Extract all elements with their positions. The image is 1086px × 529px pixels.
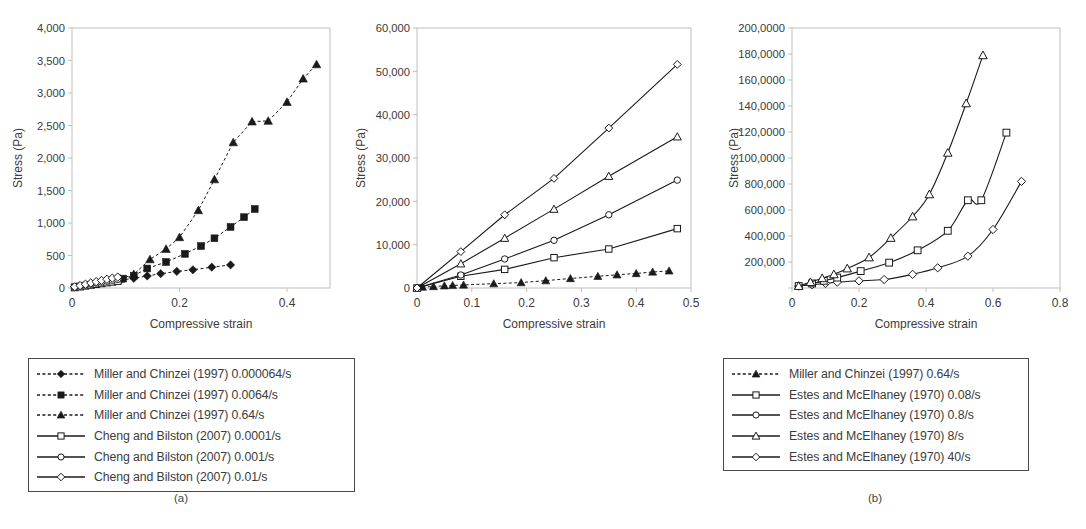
triangle-marker [229, 138, 238, 146]
square-marker [501, 266, 507, 272]
y-tick-label: 500 [46, 250, 65, 262]
x-tick-label: 0 [69, 296, 76, 310]
series-line [799, 55, 983, 286]
legend-swatch [35, 429, 87, 443]
y-tick-label: 60,000 [376, 22, 410, 34]
y-tick-label: 50,000 [376, 66, 410, 78]
legend-label: Miller and Chinzei (1997) 0.000064/s [94, 367, 291, 381]
diamond-marker [1017, 177, 1025, 185]
triangle-marker [925, 190, 934, 198]
x-axis-title: Compressive strain [875, 317, 978, 330]
series-line [123, 209, 255, 279]
y-tick-label: 4,000 [37, 22, 65, 34]
square-marker [978, 197, 985, 204]
circle-marker [501, 256, 507, 262]
triangle-marker [944, 149, 953, 157]
x-tick-label: 0 [414, 296, 421, 310]
legend-item: Miller and Chinzei (1997) 0.0064/s [35, 385, 347, 406]
diamond-marker [57, 371, 65, 379]
legend-item: Cheng and Bilston (2007) 0.0001/s [35, 426, 347, 447]
series-1 [418, 267, 673, 290]
y-tick-label: 30,000 [376, 152, 410, 164]
panel-b: 010,00020,00030,00040,00050,00060,00000.… [345, 0, 715, 529]
y-tick-label: 1,500 [37, 185, 65, 197]
legend-item: Miller and Chinzei (1997) 0.000064/s [35, 364, 347, 385]
triangle-marker [673, 133, 681, 140]
circle-marker [606, 212, 612, 218]
square-marker [914, 247, 921, 254]
square-marker [58, 392, 64, 398]
plot-area-a: 05001,0001,5002,0002,5003,0003,5004,0000… [0, 0, 362, 330]
triangle-marker [146, 255, 155, 263]
diamond-marker [880, 275, 888, 283]
square-marker [211, 235, 218, 242]
y-tick-label: 800,000 [745, 178, 785, 190]
y-tick-label: 2,000 [37, 152, 65, 164]
legend-swatch [35, 470, 87, 484]
diamond-marker [208, 263, 216, 271]
square-marker [551, 254, 557, 260]
square-marker [964, 197, 971, 204]
triangle-marker [566, 274, 574, 281]
chart-b: 010,00020,00030,00040,00050,00060,00000.… [345, 0, 715, 330]
legend-swatch [35, 450, 87, 464]
diamond-marker [173, 267, 181, 275]
y-tick-label: 3,000 [37, 87, 65, 99]
triangle-marker [299, 74, 308, 82]
y-tick-label: 160,0000 [738, 74, 785, 86]
series-3 [794, 51, 987, 289]
legend-swatch [35, 408, 87, 422]
triangle-marker [865, 253, 874, 261]
y-tick-label: 40,000 [376, 109, 410, 121]
diamond-marker [143, 272, 151, 280]
triangle-marker [175, 233, 184, 241]
square-marker [674, 225, 680, 231]
chart-c: 200,000400,000600,000800,000100,0000120,… [700, 0, 1086, 330]
legend-label: Cheng and Bilston (2007) 0.01/s [94, 470, 267, 484]
square-marker [144, 265, 151, 272]
square-marker [1003, 129, 1010, 136]
y-tick-label: 100,0000 [738, 152, 785, 164]
triangle-marker [57, 412, 65, 419]
triangle-marker [440, 282, 448, 289]
y-tick-label: 1,000 [37, 217, 65, 229]
x-tick-label: 0.4 [918, 296, 935, 310]
triangle-marker [457, 260, 465, 267]
square-marker [251, 206, 258, 213]
series-line [417, 64, 677, 288]
diamond-marker [189, 266, 197, 274]
circle-marker [58, 454, 64, 460]
square-marker [227, 224, 234, 231]
x-tick-label: 0.2 [518, 296, 535, 310]
series-4 [413, 133, 681, 291]
circle-marker [674, 177, 680, 183]
series-line [799, 181, 1022, 286]
y-tick-label: 2,500 [37, 120, 65, 132]
x-tick-label: 0.8 [1052, 296, 1069, 310]
y-tick-label: 400,000 [745, 230, 785, 242]
square-marker [181, 250, 188, 257]
legend-swatch [35, 367, 87, 381]
plot-frame [417, 28, 691, 288]
plot-area-c: 200,000400,000600,000800,000100,0000120,… [700, 0, 1086, 330]
triangle-marker [550, 205, 558, 212]
y-axis-title: Stress (Pa) [727, 128, 741, 188]
triangle-marker [613, 271, 621, 278]
series-line [799, 133, 1007, 286]
panel-caption-a: (a) [0, 492, 362, 504]
square-marker [241, 214, 248, 221]
figure-stress-strain-comparison: 05001,0001,5002,0002,5003,0003,5004,0000… [0, 0, 1086, 529]
y-tick-label: 0 [404, 282, 410, 294]
square-marker [886, 259, 893, 266]
diamond-marker [157, 270, 165, 278]
series-line [120, 64, 316, 279]
plot-frame [792, 28, 1060, 288]
diamond-marker [855, 277, 863, 285]
triangle-marker [665, 267, 673, 274]
y-tick-label: 200,0000 [738, 22, 785, 34]
triangle-marker [283, 98, 292, 106]
legend-label: Miller and Chinzei (1997) 0.64/s [94, 408, 264, 422]
triangle-marker [979, 51, 988, 59]
x-tick-label: 0.2 [171, 296, 188, 310]
triangle-marker [962, 99, 971, 107]
